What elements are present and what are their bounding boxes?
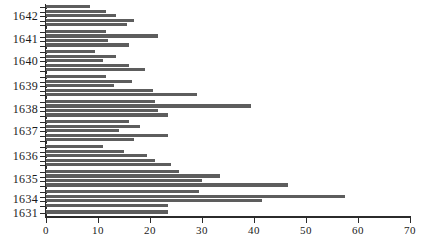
bar	[46, 18, 134, 22]
y-axis-tick	[40, 197, 46, 198]
bar	[46, 79, 132, 83]
bar	[46, 99, 155, 103]
y-axis-tick	[40, 177, 46, 178]
bar	[46, 13, 116, 17]
y-axis-tick	[40, 136, 46, 137]
y-axis-tick	[40, 127, 46, 128]
y-axis-tick	[40, 32, 46, 33]
bar	[46, 153, 147, 157]
y-axis-tick	[40, 77, 46, 78]
y-axis-tick	[40, 201, 46, 202]
y-axis-tick	[40, 7, 46, 8]
bar	[46, 22, 127, 26]
bar	[46, 133, 168, 137]
y-axis-label-1631: 1631	[13, 205, 38, 220]
bar	[46, 108, 158, 112]
y-axis-tick	[40, 111, 46, 112]
x-axis-tick	[202, 218, 203, 223]
y-axis-tick	[40, 46, 46, 47]
bar	[46, 54, 116, 58]
bar	[46, 137, 134, 141]
bar	[46, 58, 103, 62]
x-axis-label-60: 60	[352, 224, 364, 236]
y-axis-tick	[40, 141, 46, 142]
bar	[46, 63, 129, 67]
y-axis-tick	[40, 122, 46, 123]
y-axis-tick	[40, 82, 46, 83]
y-axis-label-1635: 1635	[13, 171, 38, 186]
bar	[46, 162, 171, 166]
x-axis-label-40: 40	[248, 224, 260, 236]
y-axis-tick	[40, 172, 46, 173]
bar	[46, 198, 262, 202]
bar	[46, 112, 168, 116]
y-axis-tick	[40, 37, 46, 38]
bar	[46, 88, 153, 92]
y-axis-tick	[40, 156, 46, 157]
bar	[46, 173, 220, 177]
x-axis-label-0: 0	[43, 224, 49, 236]
x-axis-tick	[98, 218, 99, 223]
y-axis-tick	[40, 71, 46, 72]
y-axis-label-1637: 1637	[13, 124, 38, 139]
y-axis-tick	[40, 131, 46, 132]
bar	[46, 42, 129, 46]
x-axis-tick	[254, 218, 255, 223]
x-axis-tick	[46, 218, 47, 223]
bar	[46, 158, 155, 162]
bar	[46, 169, 179, 173]
bar	[46, 29, 106, 33]
y-axis-tick	[40, 95, 46, 96]
y-axis-tick	[40, 102, 46, 103]
y-axis-tick	[40, 165, 46, 166]
x-axis-tick	[306, 218, 307, 223]
x-axis-label-30: 30	[196, 224, 208, 236]
y-axis-tick	[40, 186, 46, 187]
y-axis-label-1639: 1639	[13, 79, 38, 94]
y-axis-tick	[40, 161, 46, 162]
y-axis-tick	[40, 12, 46, 13]
y-axis-tick	[40, 41, 46, 42]
bar	[46, 67, 145, 71]
y-axis-labels: 1642164116401639163816371636163516341631	[0, 0, 38, 249]
y-axis-label-1640: 1640	[13, 54, 38, 69]
bar	[46, 38, 108, 42]
y-axis-label-1642: 1642	[13, 9, 38, 24]
y-axis-tick	[40, 91, 46, 92]
y-axis-label-1638: 1638	[13, 101, 38, 116]
y-axis-label-1641: 1641	[13, 31, 38, 46]
y-axis-tick	[40, 52, 46, 53]
bar	[46, 194, 345, 198]
y-axis-label-1636: 1636	[13, 149, 38, 164]
bar	[46, 92, 197, 96]
bar	[46, 33, 158, 37]
x-axis-tick	[358, 218, 359, 223]
bar	[46, 83, 114, 87]
bar	[46, 128, 119, 132]
bar	[46, 124, 140, 128]
bar	[46, 149, 124, 153]
y-axis-tick	[40, 66, 46, 67]
y-axis-tick	[40, 86, 46, 87]
x-axis-line	[45, 216, 411, 218]
y-axis-tick	[40, 107, 46, 108]
y-axis-tick	[40, 147, 46, 148]
x-axis-label-50: 50	[300, 224, 312, 236]
y-axis-tick	[40, 16, 46, 17]
x-axis-label-20: 20	[144, 224, 156, 236]
x-axis-label-70: 70	[404, 224, 416, 236]
x-axis-label-10: 10	[92, 224, 104, 236]
bar	[46, 103, 251, 107]
bar	[46, 178, 202, 182]
y-axis-tick	[40, 25, 46, 26]
y-axis-tick	[40, 21, 46, 22]
x-axis-tick	[410, 218, 411, 223]
x-axis-tick	[150, 218, 151, 223]
y-axis-tick	[40, 61, 46, 62]
y-axis-tick	[40, 213, 46, 214]
bar	[46, 203, 168, 207]
bar	[46, 209, 168, 213]
y-axis-tick	[40, 57, 46, 58]
bar	[46, 9, 106, 13]
plot-area	[46, 4, 410, 216]
